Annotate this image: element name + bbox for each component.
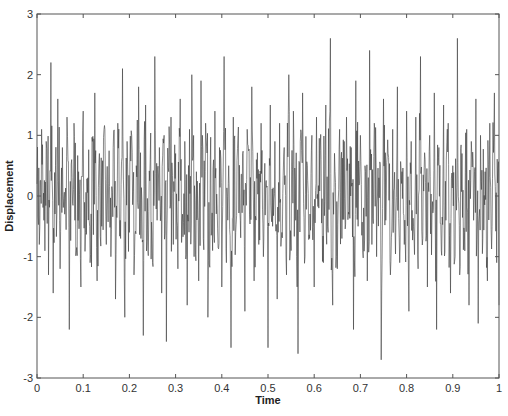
x-tick-label: 0.5 <box>260 382 275 394</box>
x-tick-label: 0.2 <box>122 382 137 394</box>
signal-line <box>37 38 499 360</box>
x-tick-label: 0.3 <box>168 382 183 394</box>
x-tick-label: 0.1 <box>76 382 91 394</box>
y-tick-label: 0 <box>27 190 33 202</box>
x-tick-label: 0.7 <box>353 382 368 394</box>
displacement-series <box>37 38 499 360</box>
x-tick-label: 0.8 <box>399 382 414 394</box>
y-tick-label: -3 <box>23 372 33 384</box>
y-tick-label: -1 <box>23 251 33 263</box>
y-tick-label: -2 <box>23 311 33 323</box>
x-axis-label: Time <box>255 394 280 406</box>
x-tick-label: 0.6 <box>307 382 322 394</box>
x-tick-label: 1 <box>496 382 502 394</box>
y-tick-label: 2 <box>27 69 33 81</box>
x-tick-label: 0 <box>34 382 40 394</box>
y-axis-label: Displacement <box>3 160 15 232</box>
x-tick-label: 0.4 <box>214 382 229 394</box>
y-tick-label: 1 <box>27 129 33 141</box>
y-tick-label: 3 <box>27 8 33 20</box>
x-tick-label: 0.9 <box>445 382 460 394</box>
line-chart: 00.10.20.30.40.50.60.70.80.91 -3-2-10123… <box>0 0 508 416</box>
